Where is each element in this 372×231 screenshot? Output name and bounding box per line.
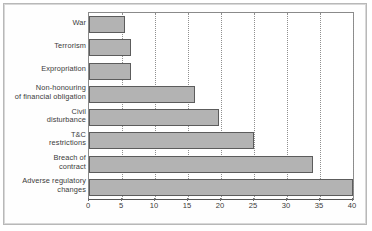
y-axis-label: Breach ofcontract [4, 154, 86, 171]
bar-row [89, 63, 353, 80]
x-axis-tick-label: 25 [249, 201, 257, 211]
bar [89, 132, 254, 149]
x-axis-tick-label: 5 [119, 201, 123, 211]
x-axis-tick-label: 0 [86, 201, 90, 211]
bar-series [89, 13, 353, 199]
x-axis-tick-label: 20 [216, 201, 224, 211]
y-axis-label-line: disturbance [4, 116, 86, 125]
bar [89, 109, 219, 126]
plot-area [88, 12, 354, 200]
y-axis-label-line: Terrorism [4, 42, 86, 51]
gridline [353, 13, 354, 199]
x-axis-tick-label: 35 [315, 201, 323, 211]
y-axis-label: Non-honouringof financial obligation [4, 84, 86, 101]
y-axis-label: T&Crestrictions [4, 131, 86, 148]
y-axis-label: Civildisturbance [4, 108, 86, 125]
x-axis-tick-label: 40 [348, 201, 356, 211]
y-axis-label: War [4, 19, 86, 28]
bar-row [89, 16, 353, 33]
bar-row [89, 132, 353, 149]
x-axis-tick-label: 15 [183, 201, 191, 211]
y-axis-label-line: changes [4, 186, 86, 195]
bar [89, 86, 195, 103]
bar [89, 156, 313, 173]
bar [89, 179, 353, 196]
y-axis-label-line: restrictions [4, 139, 86, 148]
y-axis-category-labels: WarTerrorismExpropriationNon-honouringof… [4, 12, 86, 198]
x-axis-tick-label: 10 [150, 201, 158, 211]
y-axis-label: Terrorism [4, 42, 86, 51]
bar-row [89, 179, 353, 196]
y-axis-label: Adverse regulatorychanges [4, 177, 86, 194]
y-axis-label: Expropriation [4, 65, 86, 74]
y-axis-label-line: War [4, 19, 86, 28]
bar [89, 16, 125, 33]
x-axis-tick-label: 30 [282, 201, 290, 211]
bar-row [89, 86, 353, 103]
chart-screenshot: WarTerrorismExpropriationNon-honouringof… [0, 0, 372, 231]
bar-row [89, 39, 353, 56]
y-axis-label-line: of financial obligation [4, 93, 86, 102]
bar-row [89, 109, 353, 126]
bar-row [89, 156, 353, 173]
y-axis-label-line: Expropriation [4, 65, 86, 74]
bar [89, 63, 131, 80]
bar [89, 39, 131, 56]
x-axis-tick-labels: 0510152025303540 [88, 201, 352, 215]
y-axis-label-line: contract [4, 163, 86, 172]
